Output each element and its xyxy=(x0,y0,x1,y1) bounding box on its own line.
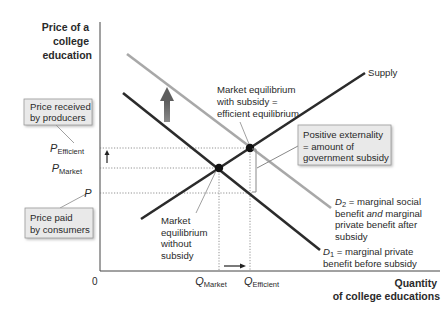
price-up-arrow-icon xyxy=(105,150,110,163)
p-market-label: PMarket xyxy=(52,162,83,176)
externality-subsidy-chart: Price of a college education Quantity of… xyxy=(0,0,448,310)
origin-label: 0 xyxy=(92,276,98,287)
d1-label: D1 = marginal private benefit before sub… xyxy=(323,246,417,269)
positive-externality-callout: Positive externality = amount of governm… xyxy=(298,125,391,165)
d2-label: D2 = marginal social benefit and margina… xyxy=(335,196,425,242)
efficient-equilibrium-point xyxy=(246,144,254,152)
efficient-equilibrium-annotation: Market equilibrium with subsidy = effici… xyxy=(216,84,299,119)
p-label: P xyxy=(84,187,92,199)
svg-text:Price received by produc: Price received by producers xyxy=(30,101,93,123)
q-efficient-label: QEfficient xyxy=(244,275,280,289)
q-market-label: QMarket xyxy=(195,275,227,289)
market-equilibrium-annotation: Market equilibrium without subsidy xyxy=(160,215,210,261)
y-axis-title: Price of a college education xyxy=(42,21,92,61)
quantity-right-arrow-icon xyxy=(224,264,246,269)
supply-label: Supply xyxy=(368,67,398,78)
price-received-callout: Price received by producers xyxy=(24,99,93,125)
p-efficient-label: PEfficient xyxy=(50,142,85,156)
price-paid-callout: Price paid by consumers xyxy=(25,208,93,238)
demand-shift-arrow-icon xyxy=(160,87,174,122)
x-axis-title: Quantity of college educations xyxy=(333,277,441,302)
market-equilibrium-point xyxy=(215,164,223,172)
